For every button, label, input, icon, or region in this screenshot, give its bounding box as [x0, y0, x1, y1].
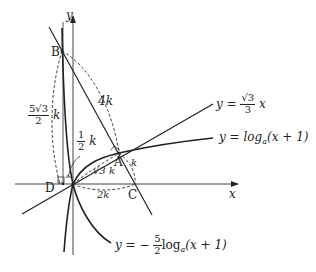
half-denominator: 2	[78, 142, 84, 153]
half-numerator: 1	[77, 130, 85, 142]
label-C: C	[128, 189, 137, 201]
label-AC: k	[131, 158, 137, 168]
label-BD: 5√32 k	[28, 104, 60, 126]
x-axis-label: x	[229, 188, 236, 200]
half-k: k	[89, 134, 96, 148]
point-D	[62, 183, 64, 185]
point-O	[71, 182, 74, 185]
label-D: D	[45, 182, 55, 194]
line1-var: x	[259, 97, 266, 111]
log2-numerator: 5	[153, 234, 161, 246]
label-B: B	[51, 46, 60, 58]
line1-numerator: √3	[240, 93, 255, 105]
point-B	[61, 50, 64, 53]
label-A: A	[114, 156, 123, 168]
label-OC: 2k	[97, 190, 109, 200]
line-BC	[49, 27, 152, 215]
line1-denominator: 3	[245, 105, 251, 116]
label-neg-log-curve: y = − 52loga(x + 1)	[115, 234, 227, 256]
label-line-sqrt3-over-3: y = √33 x	[216, 93, 266, 115]
label-OA: √3 k	[93, 166, 115, 176]
log2-arg: (x + 1)	[185, 238, 226, 252]
label-half-k: 12 k	[77, 130, 96, 152]
log1-arg: (x + 1)	[267, 130, 308, 144]
label-log-curve: y = loga(x + 1)	[219, 131, 308, 146]
log1-text: y = log	[219, 130, 262, 144]
line1-lhs: y =	[216, 97, 237, 111]
log2-text: log	[162, 238, 181, 252]
bd-denominator: 2	[35, 116, 41, 127]
bd-numerator: 5√3	[28, 104, 49, 116]
log2-lhs: y = −	[115, 238, 150, 252]
label-AB-4k: 4k	[98, 95, 113, 107]
bd-k: k	[53, 108, 60, 122]
y-axis-label: y	[66, 9, 73, 21]
log2-denominator: 2	[154, 246, 160, 257]
